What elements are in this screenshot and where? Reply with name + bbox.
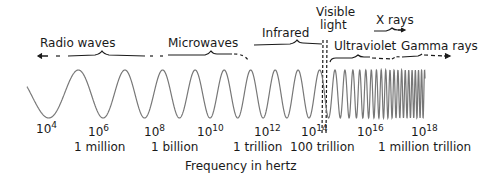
- tick-1e10: 1010: [197, 124, 224, 138]
- band-label-ultraviolet: Ultraviolet: [334, 40, 396, 52]
- name-1-trillion: 1 trillion: [233, 141, 282, 153]
- name-1-million: 1 million: [74, 141, 125, 153]
- visible-boundary-right: [326, 40, 327, 135]
- infrared-bracket: [254, 40, 322, 45]
- tick-1e4: 104: [36, 121, 57, 135]
- band-label-infrared: Infrared: [262, 27, 309, 39]
- visible-boundary-left: [322, 40, 323, 135]
- band-label-visible: Visible: [316, 6, 355, 18]
- axis-label: Frequency in hertz: [185, 160, 297, 172]
- xray-bracket: [374, 28, 402, 31]
- name-100-trillion: 100 trillion: [290, 141, 355, 153]
- tick-1e8: 108: [144, 124, 165, 138]
- band-label-light: light: [320, 19, 347, 31]
- tick-1e14: 1014: [301, 124, 328, 138]
- em-wave: [27, 70, 425, 118]
- microwave-bracket: [168, 51, 232, 55]
- name-1-billion: 1 billion: [151, 141, 198, 153]
- gamma-bracket: [402, 54, 422, 57]
- band-label-microwaves: Microwaves: [168, 37, 238, 49]
- band-label-radio: Radio waves: [40, 37, 115, 49]
- radio-bracket: [68, 51, 145, 56]
- tick-1e12: 1012: [254, 124, 281, 138]
- tick-1e16: 1016: [357, 124, 384, 138]
- band-label-xrays: X rays: [376, 14, 414, 26]
- tick-1e6: 106: [88, 124, 109, 138]
- ultraviolet-bracket: [330, 55, 370, 62]
- tick-1e18: 1018: [411, 124, 438, 138]
- band-label-gamma: Gamma rays: [401, 40, 478, 52]
- name-1-million-trillion: 1 million trillion: [378, 141, 471, 153]
